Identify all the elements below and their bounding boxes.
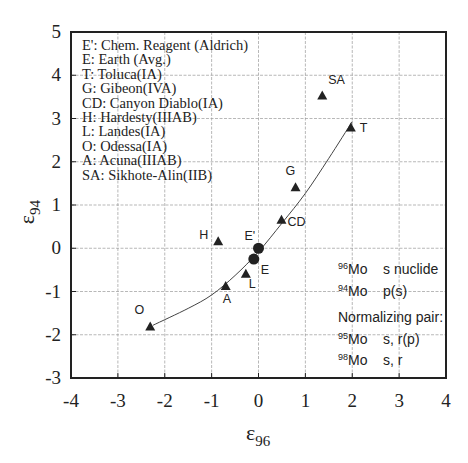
isotope-line: 95Mo <box>338 331 368 347</box>
y-tick-label: 3 <box>52 108 62 129</box>
x-tick-label: 2 <box>348 390 358 411</box>
mixing-curve <box>153 122 352 326</box>
x-tick-label: 3 <box>394 390 404 411</box>
triangle-marker <box>291 182 301 191</box>
isotope-annotation: 96Mos nuclide94Mop(s)Normalizing pair:95… <box>338 261 443 368</box>
isotope-line: 98Mo <box>338 352 368 368</box>
circle-marker <box>253 243 264 254</box>
y-tick-label: 2 <box>52 151 62 172</box>
x-tick-label: 4 <box>441 390 451 411</box>
isotope-desc: p(s) <box>383 283 407 299</box>
svg-text:ε94: ε94 <box>14 199 43 224</box>
circle-marker <box>248 254 259 265</box>
x-tick-label: -4 <box>63 390 79 411</box>
y-tick-label: 4 <box>52 64 62 85</box>
y-tick-label: 1 <box>52 194 62 215</box>
isotope-desc: s nuclide <box>383 261 438 277</box>
triangle-marker <box>221 281 231 290</box>
point-label: O <box>134 303 144 317</box>
y-tick-label: 5 <box>52 21 62 42</box>
x-tick-label: 1 <box>301 390 311 411</box>
x-tick-label: 0 <box>254 390 264 411</box>
point-label: SA <box>328 73 345 87</box>
triangle-marker <box>213 236 223 245</box>
isotope-desc: s, r <box>383 352 403 368</box>
x-tick-label: -3 <box>110 390 126 411</box>
point-label: E <box>261 263 269 277</box>
x-tick-label: -1 <box>204 390 220 411</box>
y-tick-label: -1 <box>45 281 61 302</box>
scatter-chart: 543210-1-2-3 -4-3-2-101234 ε94 ε96 E': C… <box>0 0 468 463</box>
y-axis-label: ε94 <box>14 199 43 224</box>
normalizing-title: Normalizing pair: <box>338 309 443 325</box>
legend-entry: SA: Sikhote-Alin(IIB) <box>82 167 212 184</box>
y-tick-label: -3 <box>45 367 61 388</box>
triangle-marker <box>145 322 155 331</box>
point-label: L <box>249 277 256 291</box>
point-label: A <box>223 292 232 306</box>
isotope-line: 94Mo <box>338 283 368 299</box>
point-label: E' <box>245 229 256 243</box>
y-tick-label: -2 <box>45 324 61 345</box>
point-label: G <box>286 164 296 178</box>
point-label: T <box>360 121 368 135</box>
isotope-line: 96Mo <box>338 261 368 277</box>
point-label: CD <box>287 215 305 229</box>
y-tick-label: 0 <box>52 237 62 258</box>
triangle-marker <box>317 91 327 100</box>
triangle-marker <box>346 123 356 132</box>
isotope-desc: s, r(p) <box>383 331 420 347</box>
x-axis-label: ε96 <box>246 420 271 449</box>
x-tick-label: -2 <box>157 390 173 411</box>
legend: E': Chem. Reagent (Aldrich)E: Earth (Avg… <box>82 37 248 184</box>
point-label: H <box>199 228 208 242</box>
